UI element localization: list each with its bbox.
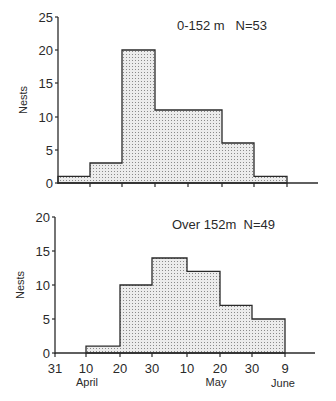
bottom-ytick-10: 10 [36, 278, 50, 293]
xtick-label: 9 [281, 361, 288, 376]
top-ytick-20: 20 [39, 43, 53, 58]
xtick-label: 10 [180, 361, 194, 376]
xtick-label: 10 [79, 361, 93, 376]
bottom-chart-title: Over 152m N=49 [172, 217, 275, 232]
bottom-ytick-5: 5 [43, 312, 50, 327]
bottom-ytick-15: 15 [36, 244, 50, 259]
bottom-ytick-20: 20 [36, 210, 50, 225]
xtick-label: 20 [113, 361, 127, 376]
bottom-histogram-bars [86, 258, 285, 353]
xtick-label: 30 [245, 361, 259, 376]
xtick-label: 30 [145, 361, 159, 376]
top-ytick-0: 0 [46, 176, 53, 191]
month-label-april: April [76, 376, 98, 388]
top-ytick-25: 25 [39, 10, 53, 25]
bottom-ytick-0: 0 [43, 346, 50, 361]
bottom-y-label: Nests [14, 270, 26, 299]
top-ytick-15: 15 [39, 76, 53, 91]
month-label-june: June [271, 377, 295, 389]
top-chart: 0 5 10 15 20 25 Nests 0-152 m N=53 [17, 10, 318, 191]
top-ytick-5: 5 [46, 143, 53, 158]
top-y-label: Nests [17, 85, 29, 114]
top-histogram-bars [58, 50, 287, 183]
bottom-chart: 0 5 10 15 20 Nests Over 152m N=49 31 10 … [14, 210, 315, 389]
histogram-figure: 0 5 10 15 20 25 Nests 0-152 m N=53 0 5 [0, 0, 336, 401]
top-ytick-10: 10 [39, 110, 53, 125]
xtick-label: 20 [213, 361, 227, 376]
top-chart-title: 0-152 m N=53 [177, 18, 267, 33]
month-label-may: May [206, 376, 227, 388]
xtick-label: 31 [48, 361, 62, 376]
